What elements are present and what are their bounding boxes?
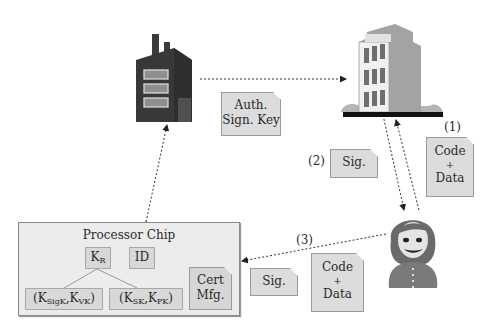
signature-document-bottom: Sig.: [250, 268, 298, 296]
root-key-kr: KR: [85, 247, 111, 269]
auth-sign-key-document: Auth. Sign. Key: [221, 92, 281, 136]
doc-text: Data: [427, 171, 473, 186]
pair-text: (K: [33, 291, 47, 305]
doc-text: +: [312, 275, 363, 287]
pair-text: ): [168, 291, 173, 305]
pair-sub: SK: [133, 297, 144, 306]
step-1-label: (1): [444, 120, 461, 134]
doc-text: Sign. Key: [222, 113, 280, 128]
signature-document-top: Sig.: [330, 149, 378, 178]
pair-sub: VK: [79, 297, 91, 306]
doc-text: Data: [312, 287, 363, 302]
processor-chip: Processor Chip KR ID (KSigK,KVK) (KSK,KP…: [18, 222, 240, 316]
pair-text: ,K: [66, 291, 79, 305]
step-3-label: (3): [296, 233, 313, 247]
chip-id: ID: [129, 247, 155, 269]
factory-icon: [134, 30, 204, 122]
doc-text: Sig.: [331, 150, 377, 175]
encryption-key-pair: (KSK,KPK): [109, 288, 183, 310]
code-data-document-bottom: Code + Data: [311, 253, 364, 312]
step-2-label: (2): [308, 154, 325, 168]
office-building-icon: [333, 22, 447, 119]
doc-text: Cert: [190, 273, 231, 288]
kr-sub: R: [99, 256, 105, 265]
signing-key-pair: (KSigK,KVK): [25, 288, 103, 310]
doc-text: Auth.: [222, 98, 280, 113]
pair-text: ,K: [144, 291, 157, 305]
pair-text: ): [90, 291, 95, 305]
person-avatar-icon: [385, 210, 441, 290]
pair-text: (K: [119, 291, 133, 305]
pair-sub: SigK: [47, 297, 66, 306]
doc-text: Code: [427, 144, 473, 159]
doc-text: Sig.: [251, 269, 297, 293]
doc-text: Code: [312, 260, 363, 275]
manufacturer-certificate: Cert Mfg.: [189, 267, 232, 310]
pair-sub: PK: [157, 297, 168, 306]
code-data-document-top: Code + Data: [426, 137, 474, 197]
doc-text: Mfg.: [190, 288, 231, 303]
doc-text: +: [427, 159, 473, 171]
